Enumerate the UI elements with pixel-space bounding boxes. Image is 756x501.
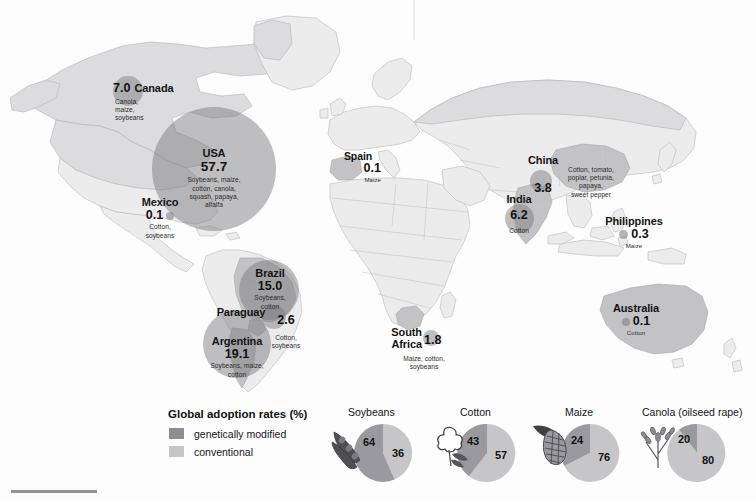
crop-adoption-pies: Soybeans 64 (330, 406, 756, 498)
pie-value-cotton-gm: 43 (467, 435, 479, 447)
pie-value-soybeans-conv: 36 (392, 447, 404, 459)
crops-china-1: Cotton, tomato, (551, 166, 631, 174)
label-australia: Australia 0.1 Cotton (601, 303, 671, 337)
crops-canada-1: Canola, (115, 98, 229, 106)
crops-china-4: sweet pepper (551, 191, 631, 199)
crops-usa-1: Soybeans, maize, (164, 176, 264, 184)
name-paraguay: Paraguay (211, 307, 271, 319)
gm-crop-adoption-map: 7.0 Canada Canola, maize, soybeans USA 5… (0, 0, 756, 501)
legend-item-gm: genetically modified (168, 427, 338, 440)
name-south-africa-line2: Africa (378, 339, 422, 351)
label-china-crops: Cotton, tomato, poplar, petunia, papaya,… (551, 166, 631, 199)
name-india: India (494, 194, 544, 206)
value-philippines: 0.3 (631, 228, 648, 242)
crops-mexico-1: Cotton, (124, 223, 196, 231)
value-argentina: 19.1 (195, 348, 279, 362)
pie-value-canola-gm: 20 (678, 433, 690, 445)
value-india: 6.2 (494, 209, 544, 223)
crops-canada-2: maize, (115, 106, 229, 114)
crops-philippines-1: Maize (595, 242, 673, 250)
world-map (0, 0, 756, 420)
crops-argentina-2: cotton (195, 371, 279, 379)
label-philippines: Philippines 0.3 Maize (595, 216, 673, 250)
legend-label-conventional: conventional (194, 446, 253, 458)
label-south-africa: South Africa (378, 327, 422, 351)
cotton-boll-icon (430, 424, 478, 470)
label-canada: 7.0 Canada Canola, maize, soybeans (113, 82, 229, 122)
value-usa: 57.7 (164, 160, 264, 175)
legend-title: Global adoption rates (%) (168, 408, 338, 420)
pie-value-canola-conv: 80 (702, 454, 714, 466)
pie-title-canola: Canola (oilseed rape) (642, 406, 742, 418)
crops-china-2: poplar, petunia, (551, 174, 631, 182)
crops-south-africa-1: Maize, cotton, (389, 355, 459, 363)
bubble-philippines (619, 230, 628, 239)
value-brazil: 15.0 (239, 280, 301, 294)
canola-sprig-icon (636, 420, 680, 470)
value-south-africa: 1.8 (424, 334, 438, 348)
value-australia: 0.1 (633, 315, 650, 329)
value-canada: 7.0 (113, 82, 130, 96)
pie-value-cotton-conv: 57 (495, 449, 507, 461)
label-brazil: Brazil 15.0 Soybeans, cotton (239, 268, 301, 311)
pie-title-maize: Maize (565, 406, 593, 418)
pie-title-soybeans: Soybeans (348, 406, 395, 418)
value-spain: 0.1 (364, 162, 381, 176)
value-paraguay: 2.6 (264, 314, 308, 328)
label-mexico: Mexico 0.1 Cotton, soybeans (124, 197, 196, 240)
crops-australia-1: Cotton (601, 329, 671, 337)
legend-label-gm: genetically modified (194, 428, 286, 440)
crops-brazil-1: Soybeans, (239, 294, 301, 302)
name-canada: Canada (134, 83, 173, 95)
label-south-africa-value: 1.8 (424, 334, 438, 348)
label-spain: Spain 0.1 Maize (331, 151, 385, 183)
soybean-pod-icon (330, 426, 368, 470)
legend-swatch-gm (168, 427, 185, 440)
crops-south-africa-2: soybeans (389, 363, 459, 371)
crops-usa-2: cotton, canola, (164, 185, 264, 193)
legend-swatch-conventional (168, 445, 185, 458)
pie-value-maize-conv: 76 (598, 451, 610, 463)
crops-mexico-2: soybeans (124, 232, 196, 240)
crops-india-1: Cotton (494, 227, 544, 235)
crops-spain-1: Maize (331, 176, 381, 184)
label-india: India 6.2 Cotton (494, 194, 544, 236)
pie-value-soybeans-gm: 64 (363, 436, 375, 448)
legend-item-conventional: conventional (168, 445, 338, 458)
bottom-rule (11, 490, 97, 493)
label-argentina: Argentina 19.1 Soybeans, maize, cotton (195, 336, 279, 379)
label-south-africa-crops: Maize, cotton, soybeans (389, 355, 459, 371)
value-mexico: 0.1 (146, 209, 163, 223)
bubble-mexico (166, 212, 174, 220)
bubble-australia (622, 318, 630, 326)
legend: Global adoption rates (%) genetically mo… (168, 408, 338, 463)
crops-argentina-1: Soybeans, maize, (195, 362, 279, 370)
pie-value-maize-gm: 24 (571, 434, 583, 446)
crops-canada-3: soybeans (115, 114, 229, 122)
label-paraguay: Paraguay (211, 307, 271, 319)
crops-china-3: papaya, (551, 182, 631, 190)
pie-title-cotton: Cotton (460, 406, 491, 418)
